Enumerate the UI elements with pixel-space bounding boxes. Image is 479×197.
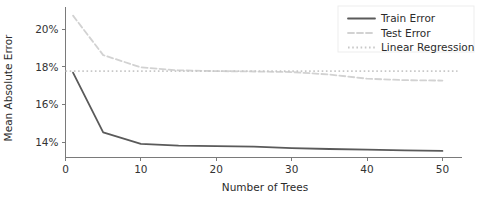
y-tick-label: 20% (35, 23, 58, 35)
y-tick-label: 16% (35, 98, 58, 110)
y-tick-label: 18% (35, 61, 58, 73)
x-tick-label: 10 (134, 163, 147, 175)
legend-label: Test Error (380, 27, 431, 39)
y-tick-label: 14% (35, 136, 58, 148)
x-tick-label: 30 (285, 163, 298, 175)
y-axis-title: Mean Absolute Error (2, 34, 14, 141)
x-tick-label: 50 (436, 163, 449, 175)
chart-plot-area: 14%16%18%20% 01020304050 Number of Trees… (0, 0, 479, 197)
x-tick-label: 40 (360, 163, 373, 175)
x-tick-label: 20 (210, 163, 223, 175)
x-tick-label: 0 (62, 163, 69, 175)
legend-label: Linear Regression (381, 41, 474, 53)
legend-label: Train Error (380, 12, 436, 24)
chart-legend: Train ErrorTest ErrorLinear Regression (338, 6, 474, 53)
x-axis-title: Number of Trees (222, 181, 308, 193)
chart-figure: 14%16%18%20% 01020304050 Number of Trees… (0, 0, 479, 197)
